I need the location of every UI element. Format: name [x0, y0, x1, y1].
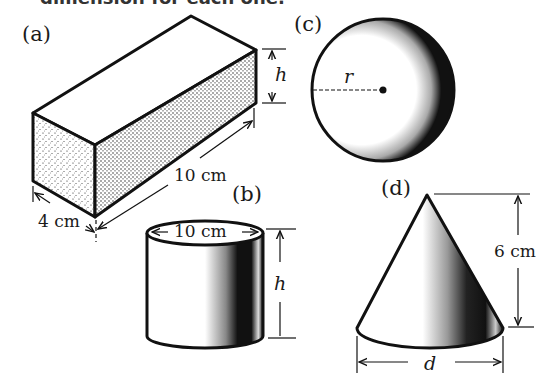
cylinder-diameter-label: 10 cm — [174, 221, 227, 241]
label-a: (a) — [22, 22, 51, 46]
box-width-label: 4 cm — [38, 211, 80, 231]
cylinder-height-label: h — [274, 272, 286, 294]
box-shape — [33, 16, 286, 242]
cone-height-label: 6 cm — [494, 241, 536, 261]
cone-diameter-label: d — [424, 352, 436, 374]
label-c: (c) — [294, 12, 322, 36]
box-length-label: 10 cm — [174, 165, 227, 185]
label-b: (b) — [232, 182, 262, 206]
sphere-shape — [312, 19, 454, 161]
geometry-figure: dimension for each one. — [0, 0, 551, 392]
label-d: (d) — [381, 176, 411, 200]
figure-drawing — [0, 0, 551, 392]
box-height-label: h — [275, 63, 287, 85]
cone-shape — [357, 194, 534, 373]
sphere-radius-label: r — [344, 65, 353, 87]
